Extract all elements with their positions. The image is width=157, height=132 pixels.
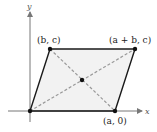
vertex-a0 <box>113 109 117 113</box>
vertex-apb-c <box>133 47 137 51</box>
parallelogram-diagram: y x (b, c) (a + b, c) (a, 0) <box>0 0 157 132</box>
vertex-origin <box>28 109 32 113</box>
label-apb-c: (a + b, c) <box>109 35 151 45</box>
y-axis-label: y <box>26 2 32 11</box>
label-a0: (a, 0) <box>103 116 127 126</box>
center-point <box>80 78 84 82</box>
x-axis-label: x <box>145 107 150 116</box>
diagram-canvas: y x (b, c) (a + b, c) (a, 0) <box>0 0 157 132</box>
label-bc: (b, c) <box>37 35 61 45</box>
vertex-bc <box>48 47 52 51</box>
